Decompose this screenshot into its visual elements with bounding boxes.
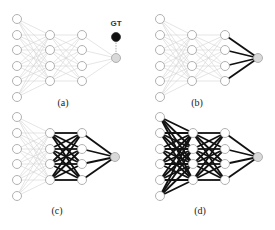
input-node (13, 31, 22, 40)
panel-label-b: (b) (191, 97, 203, 109)
edge-thin (17, 81, 50, 97)
panel-label-c: (c) (51, 205, 62, 217)
edge-thin (82, 58, 116, 81)
input-node (156, 129, 165, 138)
edge-thin (160, 81, 192, 97)
edges (17, 19, 116, 97)
input-node (13, 176, 22, 185)
input-node (13, 15, 22, 24)
panel-c: (c) (13, 113, 120, 218)
panel-d: (d) (156, 113, 263, 218)
hidden-node (46, 129, 55, 138)
input-node (13, 129, 22, 138)
hidden-node (189, 145, 198, 154)
neural-network-figure: GT(a)(b)(c)(d) (0, 0, 275, 230)
edge-thin (160, 50, 192, 97)
panels-group: GT(a)(b)(c)(d) (13, 15, 263, 218)
input-node (13, 93, 22, 102)
output-node (112, 54, 121, 63)
hidden-node (46, 145, 55, 154)
hidden-node (46, 160, 55, 169)
output-node (111, 153, 120, 162)
hidden-node (189, 176, 198, 185)
input-node (156, 160, 165, 169)
hidden-node (221, 62, 230, 71)
output-node (254, 153, 263, 162)
output-node (254, 54, 263, 63)
edge-thin (82, 58, 116, 66)
edge-thin (17, 66, 50, 97)
input-node (156, 113, 165, 122)
panel-b: (b) (156, 15, 263, 110)
gt-label: GT (110, 19, 121, 28)
hidden-node (189, 160, 198, 169)
hidden-node (78, 176, 87, 185)
input-node (156, 93, 165, 102)
hidden-node (221, 129, 230, 138)
hidden-node (221, 46, 230, 55)
hidden-node (78, 145, 87, 154)
input-node (13, 160, 22, 169)
panel-a: GT(a) (13, 15, 122, 110)
hidden-node (78, 62, 87, 71)
ground-truth-node (112, 33, 121, 42)
edge-thin (82, 50, 116, 58)
hidden-node (188, 46, 197, 55)
input-node (13, 77, 22, 86)
input-node (156, 31, 165, 40)
edge-thin (17, 117, 50, 133)
hidden-node (221, 176, 230, 185)
hidden-node (78, 77, 87, 86)
input-node (156, 192, 165, 201)
input-node (156, 176, 165, 185)
hidden-node (46, 31, 55, 40)
hidden-node (78, 46, 87, 55)
input-node (13, 145, 22, 154)
hidden-node (221, 77, 230, 86)
edge-thin (17, 133, 50, 196)
hidden-node (78, 160, 87, 169)
hidden-node (188, 62, 197, 71)
hidden-node (46, 62, 55, 71)
panel-label-a: (a) (57, 97, 68, 109)
hidden-node (189, 129, 198, 138)
edge-thin (82, 35, 116, 58)
hidden-node (188, 31, 197, 40)
input-node (13, 113, 22, 122)
input-node (156, 145, 165, 154)
input-node (13, 46, 22, 55)
edge-thin (17, 180, 50, 196)
edges (160, 19, 258, 97)
edge-thin (17, 19, 50, 35)
hidden-node (188, 77, 197, 86)
input-node (13, 192, 22, 201)
hidden-node (221, 31, 230, 40)
hidden-node (46, 77, 55, 86)
input-node (156, 62, 165, 71)
hidden-node (46, 46, 55, 55)
edges (160, 117, 258, 196)
edges (17, 117, 115, 196)
input-node (156, 77, 165, 86)
input-node (13, 62, 22, 71)
hidden-node (221, 160, 230, 169)
hidden-node (78, 129, 87, 138)
input-node (156, 15, 165, 24)
hidden-node (221, 145, 230, 154)
edge-thin (17, 50, 50, 97)
hidden-node (78, 31, 87, 40)
edge-thin (17, 19, 50, 50)
panel-label-d: (d) (194, 205, 206, 217)
hidden-node (46, 176, 55, 185)
edge-thin (160, 19, 192, 35)
input-node (156, 46, 165, 55)
